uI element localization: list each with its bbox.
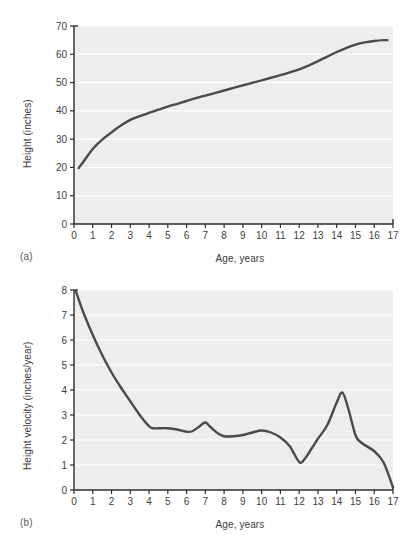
- y-tick-label: 20: [56, 162, 68, 173]
- x-tick-label: 17: [387, 230, 399, 241]
- x-tick-label: 15: [350, 230, 362, 241]
- x-tick-label: 8: [221, 496, 227, 507]
- y-tick-label: 0: [61, 219, 67, 230]
- x-tick-label: 12: [294, 230, 306, 241]
- x-tick-label: 2: [109, 230, 115, 241]
- y-tick-label: 5: [61, 360, 67, 371]
- figure-panel-b: Height velocity (inches/year) 0123456780…: [0, 272, 417, 544]
- x-tick-label: 11: [275, 496, 286, 507]
- x-tick-label: 16: [369, 230, 381, 241]
- x-tick-label: 0: [71, 496, 77, 507]
- x-tick-label: 9: [240, 230, 246, 241]
- y-tick-label: 0: [61, 485, 67, 496]
- y-tick-label: 3: [61, 410, 67, 421]
- y-tick-label: 8: [61, 285, 67, 296]
- y-tick-label: 4: [61, 385, 67, 396]
- chart-b-plot: 01234567801234567891011121314151617: [0, 272, 417, 544]
- panel-b-label: (b): [20, 517, 33, 528]
- y-tick-label: 6: [61, 335, 67, 346]
- y-tick-label: 50: [56, 77, 68, 88]
- x-tick-label: 0: [71, 230, 77, 241]
- y-tick-label: 1: [61, 460, 67, 471]
- x-tick-label: 3: [128, 496, 134, 507]
- x-tick-label: 3: [128, 230, 134, 241]
- x-tick-label: 1: [90, 230, 96, 241]
- x-tick-label: 15: [350, 496, 362, 507]
- y-tick-label: 7: [61, 310, 67, 321]
- x-tick-label: 7: [203, 230, 209, 241]
- x-tick-label: 9: [240, 496, 246, 507]
- x-tick-label: 14: [331, 496, 343, 507]
- chart-b-x-axis-label: Age, years: [140, 519, 340, 530]
- x-tick-label: 5: [165, 230, 171, 241]
- y-tick-label: 60: [56, 49, 68, 60]
- x-tick-label: 10: [256, 230, 268, 241]
- chart-a-x-axis-label: Age, years: [140, 253, 340, 264]
- x-tick-label: 5: [165, 496, 171, 507]
- y-tick-label: 2: [61, 435, 67, 446]
- x-tick-label: 2: [109, 496, 115, 507]
- x-tick-label: 6: [184, 496, 190, 507]
- y-tick-label: 10: [56, 190, 68, 201]
- y-tick-label: 70: [56, 21, 68, 32]
- x-tick-label: 8: [221, 230, 227, 241]
- y-tick-label: 30: [56, 134, 68, 145]
- x-tick-label: 16: [369, 496, 381, 507]
- x-tick-label: 12: [294, 496, 306, 507]
- x-tick-label: 17: [387, 496, 399, 507]
- x-tick-label: 4: [146, 230, 152, 241]
- figure-panel-a: Height (inches) 010203040506070012345678…: [0, 0, 417, 272]
- panel-a-label: (a): [20, 251, 33, 262]
- x-tick-label: 11: [275, 230, 286, 241]
- x-tick-label: 14: [331, 230, 343, 241]
- x-tick-label: 13: [312, 230, 324, 241]
- chart-a-plot: 0102030405060700123456789101112131415161…: [0, 0, 417, 272]
- x-tick-label: 13: [312, 496, 324, 507]
- x-tick-label: 4: [146, 496, 152, 507]
- x-tick-label: 7: [203, 496, 209, 507]
- x-tick-label: 1: [90, 496, 96, 507]
- y-tick-label: 40: [56, 105, 68, 116]
- x-tick-label: 6: [184, 230, 190, 241]
- x-tick-label: 10: [256, 496, 268, 507]
